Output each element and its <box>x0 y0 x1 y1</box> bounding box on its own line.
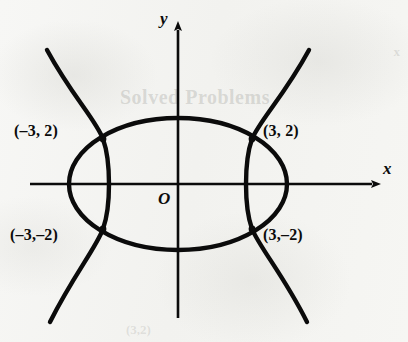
x-axis-label: x <box>383 160 392 177</box>
intersection-point-lower-right <box>249 226 256 233</box>
origin-label: O <box>158 190 170 207</box>
y-axis-label: y <box>160 10 168 27</box>
point-label-upper-right: (3, 2) <box>263 123 299 139</box>
figure-container: Solved Problems x (3,2) (–3, 2) (3, 2) <box>0 0 408 342</box>
hyperbola-left-branch <box>47 50 109 322</box>
point-label-lower-right: (3,–2) <box>263 227 303 243</box>
intersection-point-upper-left <box>100 136 107 143</box>
point-label-lower-left: (–3,–2) <box>10 227 58 243</box>
point-label-upper-left: (–3, 2) <box>14 123 58 139</box>
conic-plot <box>0 0 408 342</box>
hyperbola-right-branch <box>246 50 309 322</box>
intersection-point-lower-left <box>100 226 107 233</box>
intersection-point-upper-right <box>249 136 256 143</box>
